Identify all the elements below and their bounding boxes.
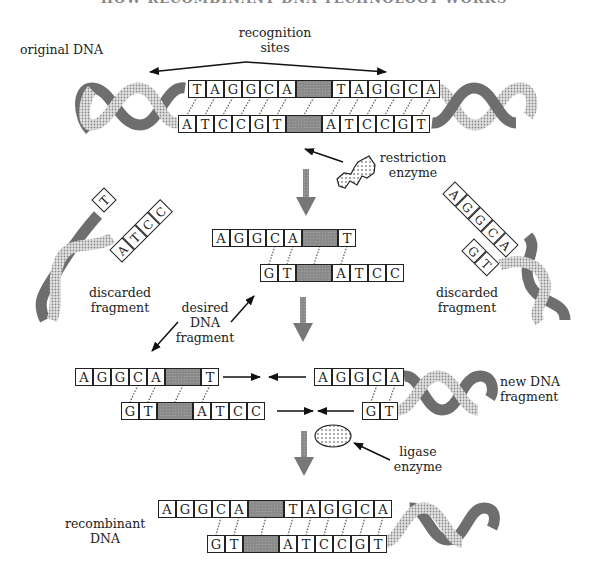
recombinant-dna-diagram: HOW RECOMBINANT DNA TECHNOLOGY WORKS <box>0 0 608 574</box>
new-fragment-top-strand: AGGCA <box>315 369 404 386</box>
base-letter: G <box>342 502 352 517</box>
base-letter: G <box>398 117 408 132</box>
cut-site-block <box>303 230 338 247</box>
base-letter: G <box>254 117 264 132</box>
label-line: enzyme <box>383 459 453 474</box>
diagram-title: HOW RECOMBINANT DNA TECHNOLOGY WORKS <box>0 0 608 6</box>
cut-fragment-top-strand: AGGCAT <box>213 230 356 247</box>
cut-site-block <box>249 501 284 518</box>
label-line: DNA <box>170 315 240 330</box>
base-letter: G <box>366 404 376 419</box>
cut-fragment-bottom-strand: GTATCC <box>261 265 404 282</box>
base-letter: A <box>78 370 89 385</box>
label-line: desired <box>170 300 240 315</box>
label-ligase-enzyme: ligase enzyme <box>383 444 453 474</box>
base-letter: C <box>408 82 418 97</box>
label-line: ligase <box>383 444 453 459</box>
base-letter: C <box>362 117 372 132</box>
base-letter: A <box>150 370 161 385</box>
base-letter: G <box>372 82 382 97</box>
base-letter: A <box>335 266 346 281</box>
base-letter: T <box>289 502 298 517</box>
base-letter: T <box>201 117 210 132</box>
label-line: fragment <box>170 330 240 345</box>
restriction-enzyme-arrow <box>305 149 343 162</box>
base-letter: G <box>336 370 346 385</box>
label-line: DNA <box>65 531 145 546</box>
base-letter: G <box>180 502 190 517</box>
label-new-dna-fragment: new DNA fragment <box>500 374 570 404</box>
base-letter: A <box>425 82 436 97</box>
base-letter: A <box>287 231 298 246</box>
base-letter: C <box>251 404 261 419</box>
label-line: fragment <box>432 300 502 315</box>
base-letter: T <box>337 82 346 97</box>
base-letter: A <box>377 502 388 517</box>
base-letter: T <box>273 117 282 132</box>
base-letter: A <box>282 537 293 552</box>
base-letter: C <box>264 82 274 97</box>
label-discarded-fragment-right: discarded fragment <box>432 285 502 315</box>
recombinant-top-strand: AGGCATAGGCA <box>159 501 392 518</box>
base-letter: A <box>353 82 364 97</box>
cut-site-block <box>244 536 279 553</box>
label-restriction-enzyme: restriction enzyme <box>378 150 448 180</box>
base-letter: T <box>355 266 364 281</box>
base-letter: C <box>319 537 329 552</box>
original-bottom-strand: ATCCGTATCCGT <box>179 116 430 133</box>
base-letter: T <box>283 266 292 281</box>
base-letter: G <box>228 82 238 97</box>
base-letter: G <box>211 537 221 552</box>
label-line: recognition <box>225 25 325 40</box>
label-desired-dna-fragment: desired DNA fragment <box>170 300 240 345</box>
base-letter: G <box>198 502 208 517</box>
base-letter: G <box>125 404 135 419</box>
cut-site-block <box>297 265 332 282</box>
base-letter: A <box>325 117 336 132</box>
base-letter: C <box>133 370 143 385</box>
base-letter: A <box>389 370 400 385</box>
label-line: sites <box>225 40 325 55</box>
base-letter: C <box>390 266 400 281</box>
base-letter: C <box>218 117 228 132</box>
process-arrow-1 <box>296 169 316 216</box>
cut-site-block <box>297 81 332 98</box>
base-letter: A <box>209 82 220 97</box>
dna-helix-strand <box>383 508 462 542</box>
base-letter: G <box>264 266 274 281</box>
cut-site-block <box>287 116 322 133</box>
base-letter: G <box>246 82 256 97</box>
base-letter: A <box>281 82 292 97</box>
label-discarded-fragment-left: discarded fragment <box>85 285 155 315</box>
base-letter: G <box>355 537 365 552</box>
joining-left-top-strand: AGGCAT <box>76 369 219 386</box>
cut-site-block <box>166 369 201 386</box>
label-recombinant-dna: recombinant DNA <box>65 516 145 546</box>
base-letter: G <box>234 231 244 246</box>
restriction-enzyme-icon <box>337 156 375 188</box>
new-fragment-bottom-strand: GT <box>363 403 398 420</box>
base-letter: T <box>374 537 383 552</box>
base-letter: T <box>302 537 311 552</box>
base-letter: T <box>417 117 426 132</box>
base-letter: G <box>252 231 262 246</box>
base-letter: T <box>345 117 354 132</box>
base-letter: A <box>196 404 207 419</box>
base-letter: A <box>215 231 226 246</box>
label-line: discarded <box>432 285 502 300</box>
process-arrow-2 <box>293 297 313 342</box>
base-letter: T <box>385 404 394 419</box>
original-top-strand: TAGGCATAGGCA <box>189 81 440 98</box>
base-letter: T <box>343 231 352 246</box>
base-letter: G <box>115 370 125 385</box>
base-letter: A <box>233 502 244 517</box>
recognition-sites-arrows <box>150 62 386 72</box>
base-letter: C <box>380 117 390 132</box>
base-letter: G <box>324 502 334 517</box>
base-letter: T <box>144 404 153 419</box>
label-line: discarded <box>85 285 155 300</box>
label-line: enzyme <box>378 165 448 180</box>
base-letter: C <box>360 502 370 517</box>
base-letter: T <box>216 404 225 419</box>
base-letter: C <box>216 502 226 517</box>
